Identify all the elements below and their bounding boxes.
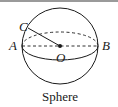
label-b: B xyxy=(102,38,110,53)
sphere-diagram: C A B O Sphere xyxy=(0,0,118,107)
radius-oc xyxy=(28,28,60,46)
label-o: O xyxy=(56,50,66,65)
equator-back-dashed xyxy=(22,32,98,46)
center-point-o xyxy=(58,44,62,48)
figure-caption: Sphere xyxy=(42,89,78,104)
label-c: C xyxy=(19,19,28,34)
label-a: A xyxy=(8,38,17,53)
